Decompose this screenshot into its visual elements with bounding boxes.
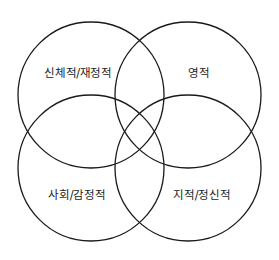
venn-diagram [0,0,279,260]
label-social-emotional: 사회/감정적 [48,186,105,202]
label-spiritual: 영적 [188,64,209,80]
label-physical-financial: 신체적/재정적 [44,64,112,80]
label-intellectual-mental: 지적/정신적 [173,186,230,202]
